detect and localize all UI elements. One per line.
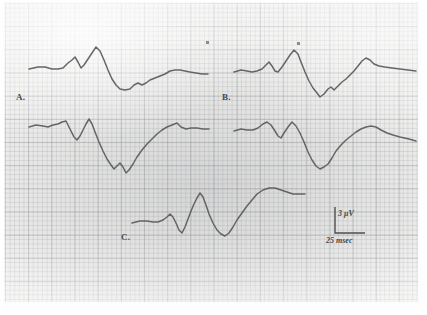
- waveform-a-upper: [29, 47, 208, 90]
- scale-bar-time-label: 25 msec: [326, 236, 352, 245]
- trace-label-b: B.: [222, 92, 231, 102]
- stimulus-marker-1: [206, 41, 209, 44]
- stimulus-marker-2: [297, 42, 300, 45]
- waveform-b-lower: [234, 122, 416, 169]
- scale-bar-amplitude-label: 3 μV: [338, 209, 354, 218]
- trace-label-c: C.: [121, 232, 130, 242]
- stimulus-marker-group: [206, 41, 300, 45]
- trace-label-a: A.: [16, 92, 25, 102]
- evoked-potential-figure: A. B. C. 3 μV 25 msec: [0, 0, 427, 315]
- waveform-a-lower: [29, 119, 209, 173]
- waveform-group: [29, 47, 416, 236]
- waveform-b-upper: [234, 50, 416, 97]
- waveform-canvas: [0, 0, 427, 315]
- waveform-c: [132, 188, 305, 236]
